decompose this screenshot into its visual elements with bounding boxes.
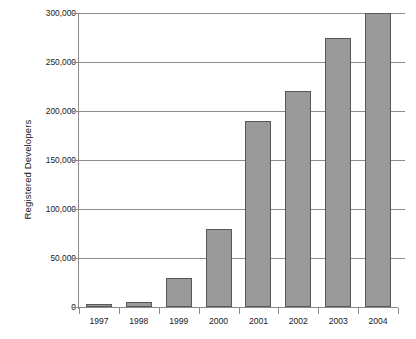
x-tick-label: 1998 <box>129 317 148 326</box>
x-tick-mark <box>398 308 399 314</box>
x-tick-mark <box>159 308 160 314</box>
y-tick-mark <box>72 111 78 112</box>
bar <box>325 38 351 308</box>
x-tick-mark <box>79 308 80 314</box>
bar <box>126 302 152 307</box>
x-tick-label: 1999 <box>169 317 188 326</box>
y-tick-mark-right <box>398 209 405 210</box>
bar <box>166 278 192 307</box>
bar <box>86 304 112 307</box>
bar <box>245 121 271 307</box>
bar-chart-figure: Registered Developers 050,000100,000150,… <box>0 0 416 339</box>
bar <box>285 91 311 307</box>
y-tick-mark-right <box>398 258 405 259</box>
x-tick-label: 2002 <box>289 317 308 326</box>
x-tick-label: 2001 <box>249 317 268 326</box>
x-tick-label: 2000 <box>209 317 228 326</box>
x-tick-label: 1997 <box>89 317 108 326</box>
y-axis-tick-labels: 050,000100,000150,000200,000250,000300,0… <box>26 13 76 307</box>
x-tick-label: 2003 <box>329 317 348 326</box>
y-tick-mark-right <box>398 111 405 112</box>
x-tick-mark <box>358 308 359 314</box>
bar-series <box>79 13 398 307</box>
x-tick-mark <box>318 308 319 314</box>
bar <box>365 13 391 307</box>
bar <box>206 229 232 307</box>
y-tick-mark <box>72 209 78 210</box>
x-tick-label: 2004 <box>369 317 388 326</box>
y-tick-mark <box>72 258 78 259</box>
x-tick-mark <box>239 308 240 314</box>
y-tick-mark <box>72 62 78 63</box>
x-tick-mark <box>278 308 279 314</box>
x-axis-line <box>78 307 398 308</box>
x-tick-mark <box>119 308 120 314</box>
y-tick-mark <box>72 307 78 308</box>
x-tick-mark <box>199 308 200 314</box>
y-tick-mark-right <box>398 13 405 14</box>
y-tick-mark <box>72 13 78 14</box>
y-tick-mark-right <box>398 160 405 161</box>
y-tick-mark <box>72 160 78 161</box>
y-tick-mark-right <box>398 62 405 63</box>
